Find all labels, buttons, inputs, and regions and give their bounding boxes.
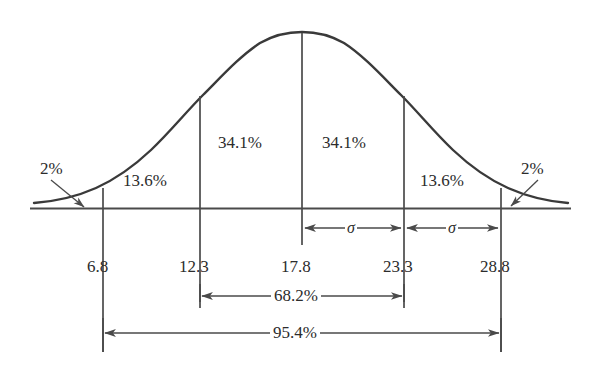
region-label-left-outer: 13.6% — [123, 172, 167, 189]
distribution-chart-svg — [0, 0, 589, 367]
normal-distribution-figure: 2% 13.6% 34.1% 34.1% 13.6% 2% σ σ 6.8 12… — [0, 0, 589, 367]
span-label-68: 68.2% — [271, 287, 321, 304]
right-tail-leader — [511, 180, 538, 206]
sigma-label-left: σ — [345, 220, 357, 236]
region-label-right-inner: 34.1% — [322, 134, 366, 151]
tail-label-left: 2% — [40, 160, 63, 177]
span-label-95: 95.4% — [270, 324, 320, 341]
region-label-left-inner: 34.1% — [218, 134, 262, 151]
tick-label-23-3: 23.3 — [383, 258, 413, 275]
tail-label-right: 2% — [521, 160, 544, 177]
tick-label-17-8: 17.8 — [281, 258, 311, 275]
tick-label-6-8: 6.8 — [87, 258, 108, 275]
tick-label-12-3: 12.3 — [179, 258, 209, 275]
bell-curve — [34, 32, 568, 203]
tick-label-28-8: 28.8 — [480, 258, 510, 275]
region-label-right-outer: 13.6% — [420, 172, 464, 189]
sigma-label-right: σ — [446, 220, 458, 236]
